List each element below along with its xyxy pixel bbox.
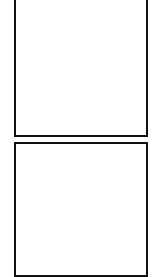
figure-artwork [0,0,159,273]
